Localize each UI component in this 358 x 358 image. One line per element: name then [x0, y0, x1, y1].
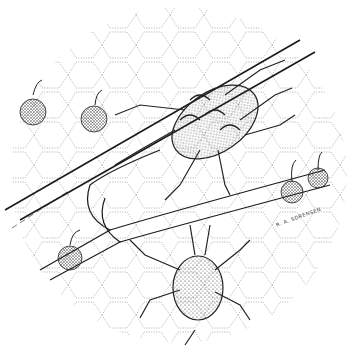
illustration-canvas: R. A. SORENSEN [0, 0, 358, 358]
leaf-illustration [0, 0, 358, 358]
